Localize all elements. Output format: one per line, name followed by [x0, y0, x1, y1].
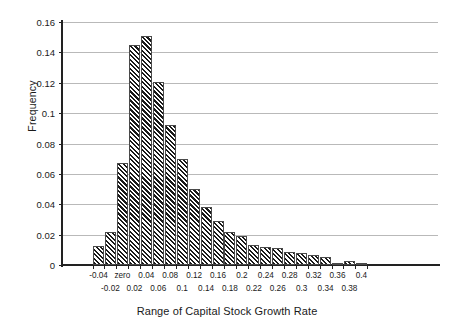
histogram-bar — [248, 245, 259, 265]
x-tick-mark — [284, 265, 285, 269]
x-tick-mark — [164, 265, 165, 269]
histogram-bar — [236, 236, 247, 265]
histogram-bar — [189, 189, 200, 265]
x-tick-mark — [93, 265, 94, 269]
x-tick-mark — [367, 265, 368, 269]
histogram-bar — [105, 232, 116, 265]
histogram-bar — [308, 255, 319, 265]
x-tick-mark — [296, 265, 297, 269]
plot-area — [63, 22, 438, 265]
x-tick-mark — [236, 265, 237, 269]
x-tick-mark — [355, 265, 356, 269]
x-tick-mark — [248, 265, 249, 269]
y-tick-label: 0.1 — [11, 108, 55, 119]
histogram-bar — [320, 257, 331, 265]
histogram-bar — [153, 82, 164, 265]
histogram-bar — [213, 221, 224, 265]
y-tick-label: 0.02 — [11, 229, 55, 240]
histogram-bar — [224, 232, 235, 265]
histogram-bar — [201, 207, 212, 265]
y-tick-mark — [59, 235, 63, 236]
y-tick-label: 0.16 — [11, 17, 55, 28]
x-axis-title: Range of Capital Stock Growth Rate — [0, 305, 454, 317]
histogram-bar — [93, 246, 104, 265]
histogram-chart: Frequency 00.020.040.060.080.10.120.140.… — [0, 0, 454, 328]
x-tick-mark — [104, 265, 105, 269]
y-tick-mark — [59, 83, 63, 84]
y-tick-label: 0.04 — [11, 199, 55, 210]
x-tick-mark — [224, 265, 225, 269]
x-tick-mark — [308, 265, 309, 269]
histogram-bar — [344, 261, 355, 265]
x-tick-mark — [140, 265, 141, 269]
histogram-bar — [284, 252, 295, 265]
y-tick-label: 0 — [11, 260, 55, 271]
y-tick-mark — [59, 113, 63, 114]
y-tick-mark — [59, 22, 63, 23]
y-tick-label: 0.06 — [11, 168, 55, 179]
histogram-bar — [296, 253, 307, 265]
x-tick-mark — [332, 265, 333, 269]
histogram-bar — [141, 36, 152, 265]
bars-container — [63, 22, 438, 265]
y-tick-mark — [59, 52, 63, 53]
y-tick-mark — [59, 204, 63, 205]
x-tick-mark — [116, 265, 117, 269]
histogram-bar — [260, 247, 271, 265]
x-tick-mark — [320, 265, 321, 269]
x-tick-mark — [200, 265, 201, 269]
x-tick-mark — [152, 265, 153, 269]
y-tick-label: 0.14 — [11, 47, 55, 58]
histogram-bar — [272, 248, 283, 265]
histogram-bar — [117, 163, 128, 265]
histogram-bar — [165, 125, 176, 265]
y-tick-mark — [59, 144, 63, 145]
x-tick-mark — [128, 265, 129, 269]
x-tick-mark — [188, 265, 189, 269]
y-tick-label: 0.08 — [11, 138, 55, 149]
y-tick-mark — [59, 174, 63, 175]
y-tick-label: 0.12 — [11, 77, 55, 88]
y-tick-mark — [59, 265, 63, 266]
x-tick-mark — [176, 265, 177, 269]
x-tick-mark — [343, 265, 344, 269]
histogram-bar — [332, 263, 343, 265]
x-tick-mark — [272, 265, 273, 269]
x-tick-mark — [212, 265, 213, 269]
x-tick-label: 0.4 — [339, 271, 383, 280]
histogram-bar — [356, 263, 367, 265]
x-tick-mark — [260, 265, 261, 269]
histogram-bar — [177, 159, 188, 265]
histogram-bar — [129, 45, 140, 265]
x-tick-label: 0.38 — [327, 284, 371, 293]
